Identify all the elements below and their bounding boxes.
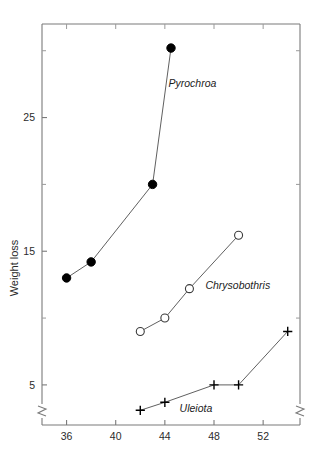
chart-figure: 51525 3640444852 Weight loss PyrochroaCh… — [0, 0, 320, 468]
y-tick-label: 25 — [23, 111, 35, 123]
data-series-layer — [62, 44, 292, 415]
series-label-pyrochroa: Pyrochroa — [169, 77, 217, 89]
x-tick-label: 52 — [257, 430, 269, 442]
y-axis-title: Weight loss — [8, 239, 20, 296]
x-axis-top-ticks — [67, 24, 264, 29]
axis-break-right-icon — [296, 406, 304, 416]
axis-break-symbols — [38, 406, 304, 416]
y-tick-label: 5 — [29, 379, 35, 391]
series-label-uleiota: Uleiota — [180, 402, 213, 414]
data-point-plus — [209, 380, 218, 389]
x-axis-tick-labels: 3640444852 — [61, 430, 269, 442]
data-point-open-circle — [161, 314, 169, 322]
data-point-filled-circle — [62, 274, 70, 282]
data-point-filled-circle — [87, 258, 95, 266]
data-point-open-circle — [235, 231, 243, 239]
y-axis-tick-labels: 51525 — [23, 111, 35, 390]
y-tick-label: 15 — [23, 245, 35, 257]
data-point-plus — [136, 406, 145, 415]
x-tick-label: 40 — [110, 430, 122, 442]
y-axis-ticks — [42, 118, 47, 385]
series-annotation-layer: PyrochroaChrysobothrisUleiota — [169, 77, 271, 414]
x-tick-label: 48 — [208, 430, 220, 442]
x-axis-ticks — [67, 420, 264, 425]
x-tick-label: 36 — [61, 430, 73, 442]
data-point-filled-circle — [148, 180, 156, 188]
weight-loss-line-chart: 51525 3640444852 Weight loss PyrochroaCh… — [0, 0, 320, 468]
data-point-open-circle — [136, 327, 144, 335]
series-line — [67, 48, 171, 278]
x-tick-label: 44 — [159, 430, 171, 442]
series-uleiota — [136, 327, 293, 415]
data-point-filled-circle — [167, 44, 175, 52]
series-label-chrysobothris: Chrysobothris — [205, 279, 271, 291]
data-point-open-circle — [185, 285, 193, 293]
series-line — [140, 331, 287, 410]
data-point-plus — [160, 398, 169, 407]
series-pyrochroa — [62, 44, 175, 282]
axis-break-left-icon — [38, 406, 46, 416]
